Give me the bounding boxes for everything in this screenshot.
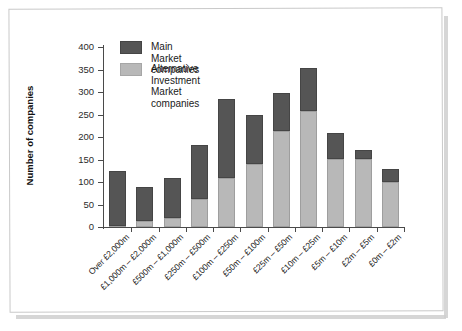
bar-segment-main-market[interactable] <box>273 93 290 131</box>
y-axis-tick <box>98 47 104 48</box>
x-axis-tick <box>131 227 132 232</box>
y-axis-tick-label: 350 <box>62 65 94 75</box>
bar-segment-aim[interactable] <box>273 131 290 227</box>
y-axis-tick-label: 400 <box>62 42 94 52</box>
x-axis-line <box>103 227 405 228</box>
y-axis-tick <box>98 92 104 93</box>
bar-segment-aim[interactable] <box>382 182 399 227</box>
bar-stack[interactable] <box>191 145 208 227</box>
y-axis-tick-label: 300 <box>62 87 94 97</box>
y-axis-tick <box>98 182 104 183</box>
bar-segment-aim[interactable] <box>136 221 153 227</box>
bar-stack[interactable] <box>218 99 235 227</box>
x-axis-tick <box>186 227 187 232</box>
y-axis-tick <box>98 205 104 206</box>
bar-segment-main-market[interactable] <box>218 99 235 178</box>
legend-label: Alternative Investment Market companies <box>151 63 200 109</box>
y-axis-tick-label: 200 <box>62 132 94 142</box>
x-axis-tick <box>349 227 350 232</box>
y-axis-tick-label: 100 <box>62 177 94 187</box>
bar-segment-main-market[interactable] <box>382 169 399 182</box>
bar-segment-main-market[interactable] <box>327 133 344 159</box>
bar-stack[interactable] <box>273 93 290 227</box>
bar-segment-main-market[interactable] <box>109 171 126 226</box>
y-axis-tick-label: 0 <box>62 222 94 232</box>
bar-segment-aim[interactable] <box>246 164 263 227</box>
legend-item-aim[interactable]: Alternative Investment Market companies <box>120 63 200 109</box>
bar-segment-main-market[interactable] <box>246 115 263 165</box>
bar-segment-main-market[interactable] <box>300 68 317 111</box>
y-axis-tick-label: 250 <box>62 110 94 120</box>
x-axis-tick <box>240 227 241 232</box>
bar-stack[interactable] <box>300 68 317 227</box>
x-axis-tick <box>404 227 405 232</box>
y-axis-tick <box>98 137 104 138</box>
bar-segment-main-market[interactable] <box>136 187 153 221</box>
bar-segment-aim[interactable] <box>327 159 344 227</box>
bar-stack[interactable] <box>164 178 181 227</box>
bar-segment-aim[interactable] <box>355 159 372 227</box>
legend-swatch-icon <box>120 41 142 54</box>
x-axis-tick <box>295 227 296 232</box>
bar-stack[interactable] <box>355 150 372 227</box>
x-axis-tick <box>377 227 378 232</box>
legend-swatch-icon <box>120 63 142 76</box>
x-axis-tick <box>159 227 160 232</box>
y-axis-tick <box>98 70 104 71</box>
x-axis-tick <box>268 227 269 232</box>
bar-segment-aim[interactable] <box>164 218 181 227</box>
y-axis-tick <box>98 160 104 161</box>
x-axis-tick <box>213 227 214 232</box>
bar-segment-main-market[interactable] <box>164 178 181 219</box>
y-axis-tick-label: 150 <box>62 155 94 165</box>
x-axis-tick <box>322 227 323 232</box>
bar-segment-main-market[interactable] <box>191 145 208 199</box>
y-axis-tick-label: 50 <box>62 200 94 210</box>
y-axis-tick <box>98 115 104 116</box>
bar-stack[interactable] <box>246 115 263 227</box>
bar-segment-aim[interactable] <box>218 178 235 227</box>
stacked-bar-chart: Number of companies 05010015020025030035… <box>0 0 462 331</box>
bar-stack[interactable] <box>109 171 126 227</box>
bar-stack[interactable] <box>136 187 153 227</box>
bar-segment-aim[interactable] <box>300 111 317 227</box>
bar-segment-aim[interactable] <box>191 199 208 227</box>
y-axis-title: Number of companies <box>24 76 35 196</box>
bar-segment-main-market[interactable] <box>355 150 372 159</box>
bar-stack[interactable] <box>382 169 399 227</box>
y-axis-tick <box>98 227 104 228</box>
bar-stack[interactable] <box>327 133 344 228</box>
